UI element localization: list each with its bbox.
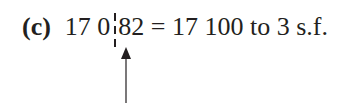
dashed-divider-line — [114, 13, 116, 48]
up-arrow-icon — [119, 47, 133, 105]
rounding-example: (c)17 082 = 17 100 to 3 s.f. — [22, 9, 328, 45]
part-label: (c) — [22, 12, 51, 41]
number-dropped-digits: 82 — [118, 12, 144, 41]
equation-result: = 17 100 to 3 s.f. — [144, 12, 328, 41]
number-kept-digits: 17 0 — [65, 12, 111, 41]
